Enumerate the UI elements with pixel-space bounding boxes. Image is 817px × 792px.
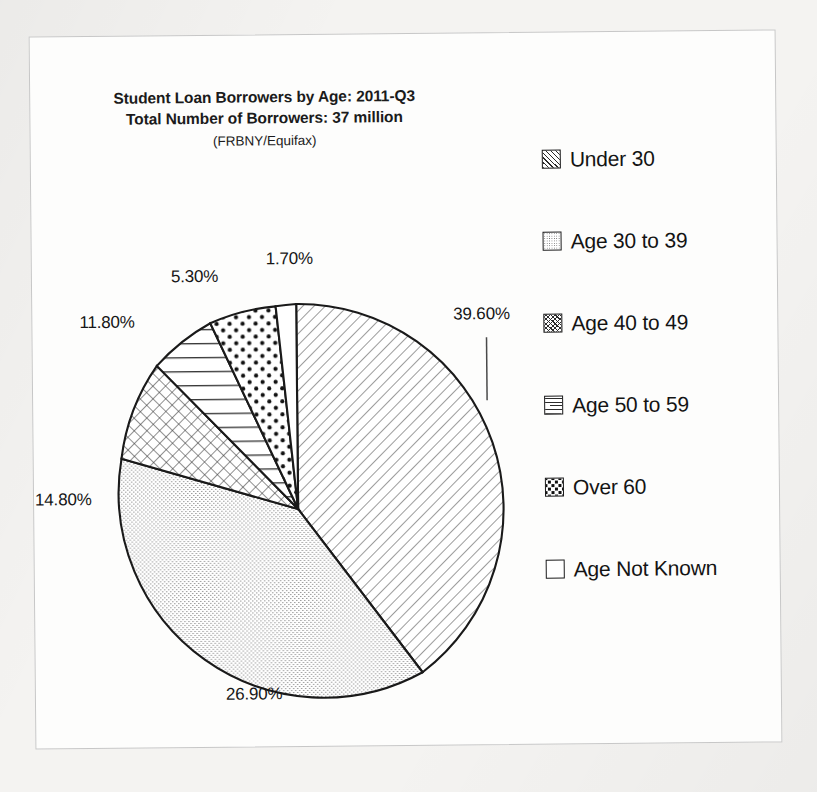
legend-item-age-not-known: Age Not Known [546,552,776,583]
legend-label-over-60: Over 60 [573,474,647,499]
legend-label-age-not-known: Age Not Known [574,556,718,581]
chart-legend: Under 30 Age 30 to 39 Age 40 to 49 Age 5… [542,142,776,583]
legend-swatch-horizontal-lines-icon [544,395,563,414]
legend-item-age-30-39: Age 30 to 39 [542,224,772,255]
legend-swatch-confetti-dots-icon [545,477,564,496]
legend-swatch-fine-dots-icon [543,231,562,250]
pie-slices [117,302,506,700]
legend-swatch-blank-icon [546,559,565,578]
legend-item-age-50-59: Age 50 to 59 [544,388,774,419]
pie-label-under-30: 39.60% [453,304,510,325]
pie-label-age-40-49: 14.80% [35,490,92,511]
legend-swatch-diagonal-hatch-icon [542,149,561,168]
legend-item-age-40-49: Age 40 to 49 [543,306,773,337]
legend-item-under-30: Under 30 [542,142,772,173]
legend-label-age-30-39: Age 30 to 39 [570,228,687,253]
pie-label-age-not-known: 1.70% [266,249,313,269]
chart-content: Student Loan Borrowers by Age: 2011-Q3 T… [29,29,781,747]
leader-line-under-30 [487,337,488,400]
legend-label-age-50-59: Age 50 to 59 [572,392,689,417]
legend-swatch-cross-hatch-icon [543,313,562,332]
legend-label-under-30: Under 30 [570,146,655,171]
pie-label-age-50-59: 11.80% [79,313,134,334]
legend-item-over-60: Over 60 [545,470,775,501]
pie-label-over-60: 5.30% [171,267,218,287]
legend-label-age-40-49: Age 40 to 49 [571,310,688,335]
pie-label-age-30-39: 26.90% [226,684,283,705]
